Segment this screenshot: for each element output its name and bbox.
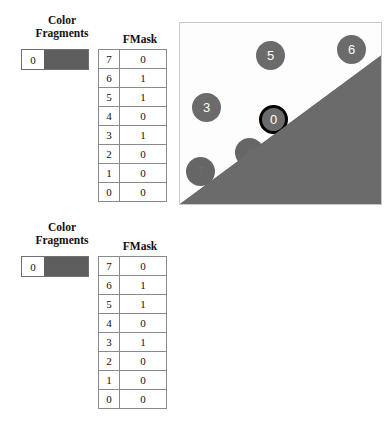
- table-row: 20: [99, 145, 167, 164]
- table-row: 61: [99, 69, 167, 88]
- fmask-index: 0: [99, 390, 120, 409]
- fmask-value: 0: [120, 257, 167, 276]
- fmask-index: 6: [99, 69, 120, 88]
- color-fragments-header-line2: Fragments: [35, 234, 88, 246]
- fmask-index: 0: [99, 183, 120, 202]
- fmask-index: 5: [99, 295, 120, 314]
- color-fragments-swatch-top: 0: [21, 49, 89, 70]
- fmask-table-top: 70 61 51 40 31 20 10 00: [98, 49, 167, 202]
- color-fragments-header-line2: Fragments: [35, 27, 88, 39]
- color-fragments-header-top: Color Fragments: [20, 14, 104, 40]
- table-row: 20: [99, 352, 167, 371]
- color-fragments-header-bottom: Color Fragments: [20, 221, 104, 247]
- fmask-index: 5: [99, 88, 120, 107]
- table-row: 10: [99, 164, 167, 183]
- table-row: 40: [99, 107, 167, 126]
- fmask-value: 0: [120, 371, 167, 390]
- fmask-index: 7: [99, 50, 120, 69]
- fmask-index: 2: [99, 352, 120, 371]
- sample-dot-7-top: 7: [186, 157, 215, 186]
- panel-bottom: Color Fragments FMask 0 70 61 51 40 31 2…: [0, 207, 388, 435]
- fmask-value: 1: [120, 276, 167, 295]
- legend-block-bottom: Color Fragments FMask: [14, 221, 174, 259]
- fmask-index: 6: [99, 276, 120, 295]
- table-row: 00: [99, 390, 167, 409]
- fmask-value: 1: [120, 69, 167, 88]
- fmask-index: 4: [99, 107, 120, 126]
- color-fragments-header-line1: Color: [48, 221, 76, 233]
- legend-headers-top: Color Fragments FMask: [14, 14, 174, 52]
- table-row: 31: [99, 333, 167, 352]
- fmask-value: 0: [120, 314, 167, 333]
- sample-dot-5-top: 5: [256, 41, 285, 70]
- fmask-table-bottom: 70 61 51 40 31 20 10 00: [98, 256, 167, 409]
- fmask-value: 1: [120, 88, 167, 107]
- sample-dot-0-top: 0: [259, 105, 288, 134]
- color-fragments-swatch-bottom: 0: [21, 256, 89, 277]
- fmask-value: 1: [120, 295, 167, 314]
- table-row: 40: [99, 314, 167, 333]
- fmask-value: 1: [120, 126, 167, 145]
- sample-dot-2-top: 2: [335, 163, 364, 192]
- table-row: 10: [99, 371, 167, 390]
- fragment-index-cell-top: 0: [22, 50, 44, 69]
- sample-dot-6-top: 6: [337, 35, 366, 64]
- fmask-value: 0: [120, 183, 167, 202]
- sample-dot-1-top: 1: [326, 89, 355, 118]
- fmask-index: 7: [99, 257, 120, 276]
- render-viewport-top: 7 4 1 2 3 5 6 0: [179, 22, 382, 205]
- table-row: 00: [99, 183, 167, 202]
- viewport-clip-top: 7 4 1 2 3 5 6 0: [180, 23, 381, 204]
- fragment-color-fill-top: [44, 50, 88, 69]
- table-row: 70: [99, 50, 167, 69]
- fmask-value: 0: [120, 352, 167, 371]
- fmask-index: 4: [99, 314, 120, 333]
- fmask-index: 1: [99, 371, 120, 390]
- table-row: 70: [99, 257, 167, 276]
- fragment-index-cell-bottom: 0: [22, 257, 44, 276]
- fmask-value: 0: [120, 164, 167, 183]
- fmask-index: 1: [99, 164, 120, 183]
- fmask-index: 3: [99, 333, 120, 352]
- fmask-index: 2: [99, 145, 120, 164]
- legend-block-top: Color Fragments FMask: [14, 14, 174, 52]
- sample-dot-4-top: 4: [235, 138, 264, 167]
- color-fragments-header-line1: Color: [48, 14, 76, 26]
- fmask-header-top: FMask: [106, 33, 174, 46]
- fragment-color-fill-bottom: [44, 257, 88, 276]
- fmask-index: 3: [99, 126, 120, 145]
- table-row: 51: [99, 295, 167, 314]
- table-row: 51: [99, 88, 167, 107]
- fmask-header-bottom: FMask: [106, 240, 174, 253]
- fmask-value: 1: [120, 333, 167, 352]
- table-row: 31: [99, 126, 167, 145]
- fmask-value: 0: [120, 50, 167, 69]
- legend-headers-bottom: Color Fragments FMask: [14, 221, 174, 259]
- sample-dot-3-top: 3: [192, 93, 221, 122]
- table-row: 61: [99, 276, 167, 295]
- fmask-value: 0: [120, 107, 167, 126]
- fmask-value: 0: [120, 390, 167, 409]
- fmask-value: 0: [120, 145, 167, 164]
- panel-top: Color Fragments FMask 0 70 61 51 40 31 2…: [0, 0, 388, 217]
